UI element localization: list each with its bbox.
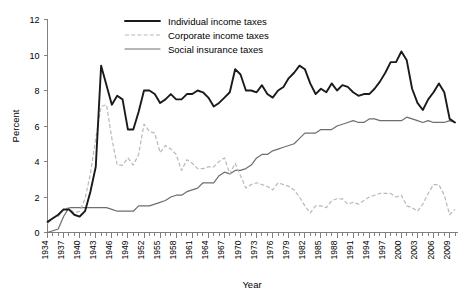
y-tick-label-4: 4 — [34, 157, 39, 167]
x-tick-label-1991: 1991 — [345, 240, 355, 259]
x-tick-label-1940: 1940 — [72, 240, 82, 259]
y-axis-title: Percent — [10, 109, 21, 142]
x-tick-label-1964: 1964 — [200, 240, 210, 259]
y-tick-label-8: 8 — [34, 86, 39, 96]
x-axis-title: Year — [242, 279, 261, 290]
x-tick-label-2000: 2000 — [393, 240, 403, 259]
legend-label-social-insurance-taxes: Social insurance taxes — [168, 44, 263, 55]
legend-label-individual-income-taxes: Individual income taxes — [168, 16, 267, 27]
x-tick-label-1976: 1976 — [265, 240, 275, 259]
y-tick-label-12: 12 — [29, 15, 39, 25]
y-tick-label-6: 6 — [34, 122, 39, 132]
x-tick-label-1982: 1982 — [297, 240, 307, 259]
y-tick-label-10: 10 — [29, 51, 39, 61]
x-tick-label-2009: 2009 — [442, 240, 452, 259]
x-tick-label-1985: 1985 — [313, 240, 323, 259]
tax-revenue-line-chart: 024681012 193419371940194319461949195219… — [0, 0, 476, 296]
x-tick-label-1970: 1970 — [233, 240, 243, 259]
x-tick-label-1952: 1952 — [136, 240, 146, 259]
y-tick-label-2: 2 — [34, 193, 39, 203]
legend: Individual income taxes Corporate income… — [125, 16, 269, 55]
x-tick-label-1967: 1967 — [216, 240, 226, 259]
x-tick-label-2003: 2003 — [409, 240, 419, 259]
x-tick-label-1943: 1943 — [88, 240, 98, 259]
legend-label-corporate-income-taxes: Corporate income taxes — [168, 30, 269, 41]
x-tick-label-1955: 1955 — [152, 240, 162, 259]
x-tick-label-1997: 1997 — [377, 240, 387, 259]
x-tick-label-1949: 1949 — [120, 240, 130, 259]
x-tick-label-1958: 1958 — [168, 240, 178, 259]
x-tick-label-1988: 1988 — [329, 240, 339, 259]
x-tick-label-1934: 1934 — [40, 240, 50, 259]
x-tick-label-1961: 1961 — [184, 240, 194, 259]
chart-canvas: 024681012 193419371940194319461949195219… — [0, 0, 476, 296]
x-tick-label-1994: 1994 — [361, 240, 371, 259]
x-tick-label-1979: 1979 — [281, 240, 291, 259]
x-tick-label-1946: 1946 — [104, 240, 114, 259]
x-tick-label-2006: 2006 — [426, 240, 436, 259]
x-tick-label-1937: 1937 — [56, 240, 66, 259]
x-tick-label-1973: 1973 — [249, 240, 259, 259]
y-tick-label-0: 0 — [34, 228, 39, 238]
